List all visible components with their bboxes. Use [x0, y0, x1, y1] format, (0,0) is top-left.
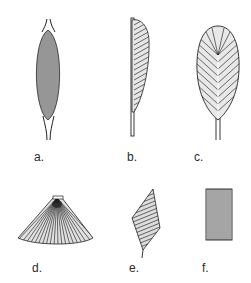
label-f: f.: [202, 262, 209, 274]
label-e: e.: [129, 262, 139, 274]
panel-c-bipennate-muscle: [196, 26, 240, 140]
panel-b-unipennate-muscle: [131, 10, 152, 136]
panel-d-convergent-muscle: [18, 196, 94, 246]
panel-a-fusiform-muscle: [36, 19, 60, 140]
label-d: d.: [32, 262, 42, 274]
muscle-diagram: [0, 0, 251, 283]
label-a: a.: [34, 151, 44, 163]
label-c: c.: [194, 151, 203, 163]
label-b: b.: [127, 151, 137, 163]
panel-f-quadrilateral-muscle: [206, 189, 232, 240]
panel-e-rhomboidal-muscle: [128, 185, 165, 258]
